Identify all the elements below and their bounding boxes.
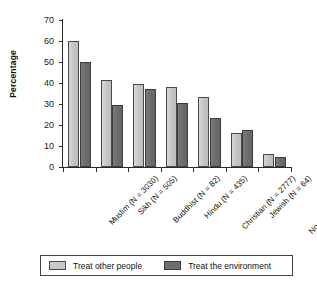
x-axis-tick xyxy=(258,168,259,172)
x-axis-tick xyxy=(161,168,162,172)
bar-treat-the-environment xyxy=(242,130,253,167)
y-axis-tick-label: 50 xyxy=(0,58,54,67)
x-axis-label: Hindu (N = 435) xyxy=(203,174,249,220)
x-axis-label: Jewish (N = 64) xyxy=(267,174,313,220)
legend-item-treat-other-people: Treat other people xyxy=(49,261,142,271)
bar-treat-the-environment xyxy=(80,62,91,167)
bar-treat-the-environment xyxy=(112,105,123,167)
x-axis-tick xyxy=(96,168,97,172)
y-axis-tick-label: 10 xyxy=(0,142,54,151)
y-axis-tick xyxy=(59,104,63,105)
bar-treat-other-people xyxy=(263,154,274,167)
bar-treat-the-environment xyxy=(145,89,156,167)
y-axis-tick xyxy=(59,125,63,126)
y-axis-tick-label: 0 xyxy=(0,163,54,172)
plot-area xyxy=(63,20,291,167)
y-axis-tick xyxy=(59,146,63,147)
bar-treat-other-people xyxy=(133,84,144,167)
bar-treat-other-people xyxy=(231,133,242,167)
bar-treat-other-people xyxy=(68,41,79,167)
x-axis-tick xyxy=(128,168,129,172)
y-axis-tick xyxy=(59,20,63,21)
x-axis-tick xyxy=(193,168,194,172)
x-axis-label: No religion (N = 1752) xyxy=(307,174,317,236)
bar-treat-other-people xyxy=(198,97,209,167)
legend-swatch-light xyxy=(49,261,66,270)
legend-swatch-dark xyxy=(164,261,181,270)
legend-label-treat-the-environment: Treat the environment xyxy=(188,261,271,271)
x-axis-label: Sikh (N = 505) xyxy=(136,174,179,217)
x-axis-tick xyxy=(291,168,292,172)
bar-treat-other-people xyxy=(101,80,112,167)
y-axis-tick-label: 20 xyxy=(0,121,54,130)
bar-treat-other-people xyxy=(166,87,177,167)
y-axis-tick xyxy=(59,62,63,63)
x-axis-tick xyxy=(63,168,64,172)
y-axis-tick xyxy=(59,41,63,42)
legend-item-treat-the-environment: Treat the environment xyxy=(164,261,271,271)
bar-treat-the-environment xyxy=(210,118,221,167)
chart-legend: Treat other people Treat the environment xyxy=(40,255,293,276)
bar-treat-the-environment xyxy=(275,157,286,168)
y-axis-tick-label: 30 xyxy=(0,100,54,109)
y-axis-tick-label: 60 xyxy=(0,37,54,46)
x-axis-label: Christian (N = 2777) xyxy=(240,174,297,231)
bar-treat-the-environment xyxy=(177,103,188,167)
y-axis-tick xyxy=(59,83,63,84)
y-axis-tick-label: 40 xyxy=(0,79,54,88)
x-axis-label: Buddhist (N = 82) xyxy=(172,174,223,225)
legend-label-treat-other-people: Treat other people xyxy=(73,261,142,271)
y-axis-tick-label: 70 xyxy=(0,16,54,25)
x-axis-label: Muslim (N = 3030) xyxy=(107,174,160,227)
x-axis-tick xyxy=(226,168,227,172)
bar-chart-figure: Percentage Muslim (N = 3030)Sikh (N = 50… xyxy=(0,0,317,294)
